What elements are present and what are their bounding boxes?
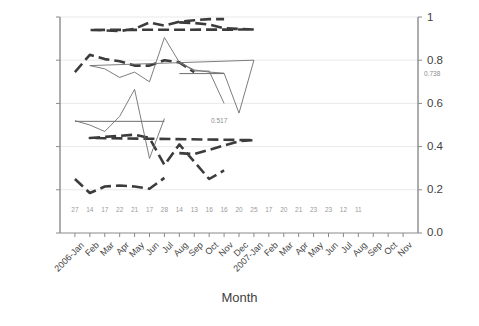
y-tick-right-0.6: 0.6 bbox=[427, 97, 461, 109]
sample-count: 20 bbox=[280, 206, 287, 213]
sample-count: 17 bbox=[101, 206, 108, 213]
sample-count: 16 bbox=[220, 206, 227, 213]
axis-ticks bbox=[56, 17, 422, 237]
sample-count: 21 bbox=[295, 206, 302, 213]
sample-count: 12 bbox=[340, 206, 347, 213]
sample-count: 23 bbox=[325, 206, 332, 213]
sample-count: 17 bbox=[265, 206, 272, 213]
sample-count: 21 bbox=[131, 206, 138, 213]
y-tick-right-0.2: 0.2 bbox=[427, 183, 461, 195]
chart-container: Proportion < 90 Minutes 1.0 0.8 0.6 0.4 … bbox=[0, 0, 479, 326]
sample-count: 23 bbox=[310, 206, 317, 213]
sample-count: 28 bbox=[161, 206, 168, 213]
sample-count: 20 bbox=[235, 206, 242, 213]
x-axis-title: Month bbox=[0, 290, 479, 305]
sample-count: 27 bbox=[71, 206, 78, 213]
sample-counts-row: 2714172221172814131616202517202123231211 bbox=[60, 206, 418, 218]
series-lower-dashed-early bbox=[75, 178, 165, 193]
series-thin-solid-late bbox=[90, 38, 254, 114]
series-thin-solid-early bbox=[75, 89, 165, 158]
reference-label-0.738: 0.738 bbox=[424, 70, 440, 77]
y-tick-right-1: 1 bbox=[427, 11, 461, 23]
axis-lines bbox=[60, 17, 418, 233]
y-tick-right-0.0: 0.0 bbox=[427, 226, 461, 238]
sample-count: 11 bbox=[355, 206, 362, 213]
sample-count: 25 bbox=[250, 206, 257, 213]
sample-count: 22 bbox=[116, 206, 123, 213]
sample-count: 14 bbox=[176, 206, 183, 213]
chart-svg bbox=[60, 17, 418, 233]
y-tick-right-0.8: 0.8 bbox=[427, 54, 461, 66]
y-tick-right-0.4: 0.4 bbox=[427, 140, 461, 152]
sample-count: 14 bbox=[86, 206, 93, 213]
sample-count: 16 bbox=[206, 206, 213, 213]
plot-area bbox=[60, 17, 418, 233]
sample-count: 17 bbox=[146, 206, 153, 213]
series-upper-dashed-late bbox=[90, 19, 254, 31]
series-lower-dashed-late bbox=[90, 135, 254, 179]
gridlines bbox=[60, 17, 418, 190]
data-series-group bbox=[75, 19, 254, 193]
sample-count: 13 bbox=[191, 206, 198, 213]
